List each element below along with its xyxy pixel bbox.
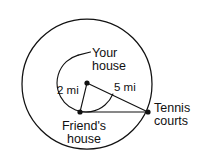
tennis-courts-label-line1: Tennis (154, 101, 190, 115)
tennis-courts-point (145, 109, 150, 114)
friends-house-point (77, 109, 82, 114)
circle-distance-diagram: Your house 2 mi 5 mi Friend's house Tenn… (0, 0, 200, 167)
outer-radius-label: 5 mi (114, 81, 136, 93)
your-house-point (84, 80, 89, 85)
your-house-label-line2: house (92, 59, 126, 73)
your-house-leader-line (78, 52, 90, 55)
your-house-label-line1: Your (92, 46, 117, 60)
friends-house-label-line1: Friend's (62, 119, 106, 133)
tennis-courts-label-line2: courts (154, 114, 188, 128)
diagram-canvas: Your house 2 mi 5 mi Friend's house Tenn… (0, 0, 200, 167)
inner-radius-label: 2 mi (57, 84, 79, 96)
segment-your-house-to-friends-house (80, 83, 87, 112)
friends-house-label-line2: house (67, 132, 101, 146)
